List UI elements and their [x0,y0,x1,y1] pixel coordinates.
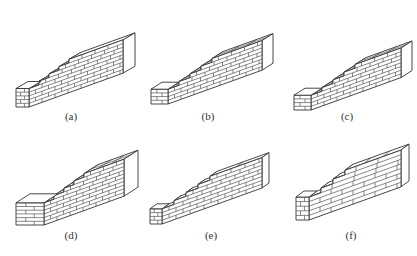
caption-e: (e) [191,229,231,241]
brick-walls-figure [0,0,417,256]
caption-a: (a) [51,110,91,122]
brick-wall-a [16,33,135,107]
caption-d: (d) [51,229,91,241]
brick-wall-b [151,34,273,104]
diagram-canvas [0,0,417,256]
brick-wall-e [150,153,269,224]
brick-wall-f [296,144,409,220]
caption-c: (c) [327,110,367,122]
brick-wall-d [16,150,138,225]
brick-wall-c [294,41,412,110]
caption-b: (b) [188,110,228,122]
caption-f: (f) [331,229,371,241]
